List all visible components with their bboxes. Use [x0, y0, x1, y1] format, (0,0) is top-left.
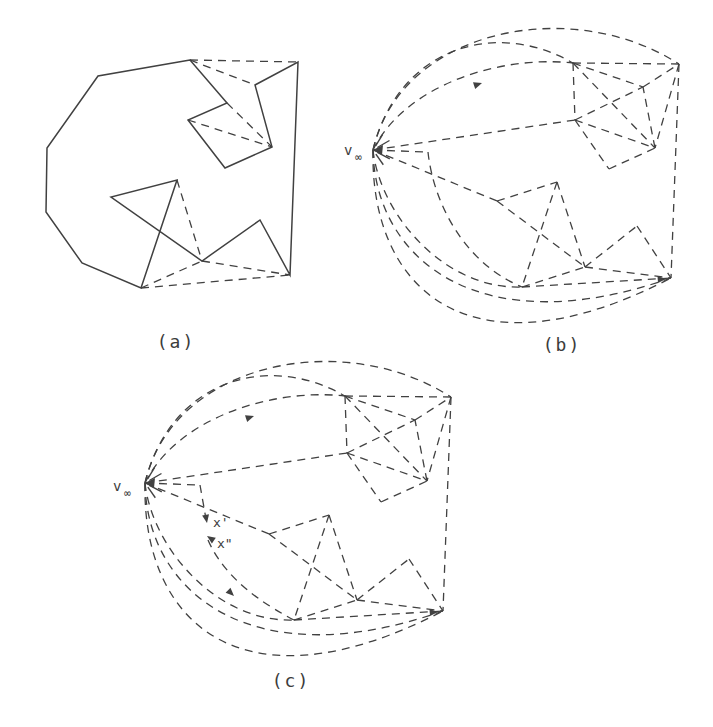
dashed-edge: [345, 396, 347, 453]
vinf-label-c: v: [113, 478, 121, 494]
dashed-edge: [497, 182, 557, 201]
caption-c: (c): [272, 670, 311, 691]
dashed-edge: [373, 120, 575, 150]
dashed-edge: [373, 150, 497, 201]
dashed-edge: [609, 148, 655, 169]
dashed-arc: [145, 483, 294, 620]
dashed-arc: [145, 361, 451, 483]
dashed-edge: [294, 515, 329, 620]
figure-canvas: (a) (b) (c) v ∞ v ∞ x' x": [0, 0, 713, 727]
dashed-edge: [381, 481, 427, 502]
vinf-ray-tick: [148, 487, 155, 498]
dashed-edge: [497, 201, 585, 267]
dashed-edge: [188, 120, 272, 147]
dashed-edge: [329, 515, 357, 600]
dashed-arc: [145, 483, 443, 656]
dashed-edge: [347, 420, 415, 453]
dashed-arc: [145, 483, 443, 635]
dashed-arc: [145, 395, 345, 483]
dashed-edge: [575, 120, 609, 169]
dashed-edge: [573, 63, 643, 87]
dashed-arc: [373, 28, 679, 150]
dashed-edge: [145, 483, 269, 534]
dashed-arc: [373, 62, 573, 150]
dashed-arc: [373, 150, 522, 287]
vinf-ray-tick: [377, 141, 389, 148]
dashed-edge: [269, 534, 357, 600]
arrowhead: [245, 415, 254, 422]
dashed-edge: [190, 60, 298, 62]
dashed-edge: [347, 453, 427, 481]
dashed-arc: [373, 43, 573, 150]
vinf-ray-tick: [149, 474, 161, 481]
dashed-arc: [145, 376, 345, 483]
dashed-edge: [443, 397, 451, 611]
dashed-arc: [428, 152, 522, 287]
dashed-edge: [573, 63, 679, 64]
dashed-edge: [269, 515, 329, 534]
dashed-edge: [345, 396, 451, 397]
dashed-edge: [347, 453, 381, 502]
dashed-edge: [141, 275, 290, 288]
dashed-edge: [294, 600, 357, 620]
solid-polygon-outline: [46, 60, 298, 288]
dashed-arc: [373, 150, 671, 323]
dashed-edge: [671, 64, 679, 278]
polygon-triangulation-figure: (a) (b) (c) v ∞ v ∞ x' x": [0, 0, 713, 727]
caption-b: (b): [543, 334, 582, 355]
arrowhead: [226, 588, 234, 596]
dashed-edge: [177, 180, 202, 261]
dashed-arc: [373, 150, 671, 302]
dashed-edge: [643, 87, 655, 148]
panel-a-polygon: [46, 60, 298, 288]
dashed-edge: [575, 87, 643, 120]
vinf-ray-tick: [376, 154, 383, 165]
dashed-edge: [557, 182, 585, 267]
panel-b-polygon: [373, 28, 679, 322]
vinf-label-b: v: [344, 142, 352, 158]
dashed-edge: [345, 396, 415, 420]
dashed-edge: [294, 611, 443, 620]
caption-a: (a): [157, 331, 196, 352]
dashed-edge: [200, 485, 206, 519]
dashed-edge: [357, 559, 409, 600]
dashed-edge: [202, 261, 290, 275]
dashed-edge: [575, 120, 655, 148]
dashed-edge: [522, 182, 557, 287]
arrowhead: [202, 514, 209, 523]
dashed-edge: [637, 226, 671, 278]
dashed-edge: [522, 267, 585, 287]
panel-c-polygon: [145, 361, 451, 655]
dashed-arc: [208, 540, 294, 620]
dashed-edge: [409, 559, 443, 611]
arrowhead: [207, 536, 216, 544]
dashed-edge: [141, 261, 202, 288]
dashed-edge: [145, 453, 347, 483]
dashed-edge: [522, 278, 671, 287]
arrowhead: [473, 82, 482, 89]
dashed-edge: [585, 226, 637, 267]
label-x-prime: x': [213, 515, 229, 530]
dashed-edge: [415, 420, 427, 481]
vinf-infinity-subscript-b: ∞: [355, 151, 362, 164]
dashed-edge: [190, 60, 255, 85]
label-x-double-prime: x": [217, 536, 233, 551]
dashed-edge: [573, 63, 575, 120]
vinf-infinity-subscript-c: ∞: [124, 487, 131, 500]
